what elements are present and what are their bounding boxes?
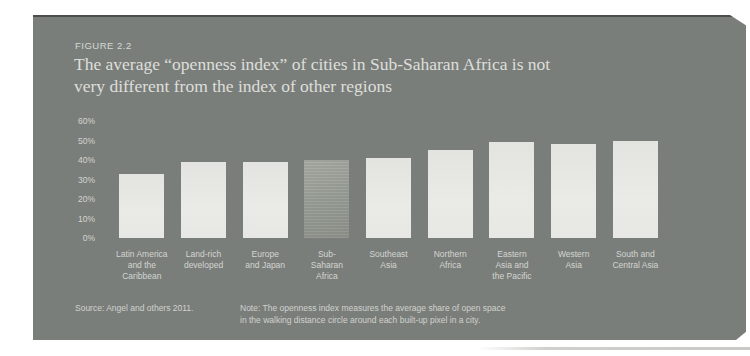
- bar-zone: [543, 121, 605, 238]
- bar-column-western-asia: Western Asia: [543, 121, 605, 282]
- bar-zone: [481, 121, 543, 238]
- bar-land-rich-developed: [181, 162, 226, 238]
- bar-column-eastern-asia-and-the-pacific: Eastern Asia and the Pacific: [481, 121, 543, 282]
- bar-zone: [296, 121, 358, 238]
- figure-panel: FIGURE 2.2 The average “openness index” …: [33, 15, 746, 340]
- figure-note-line1: Note: The openness index measures the av…: [240, 302, 505, 314]
- bar-zone: [358, 121, 420, 238]
- bar-eastern-asia-and-the-pacific: [489, 142, 534, 238]
- y-axis-tick-label-50: 50%: [55, 136, 95, 146]
- figure-number-label: FIGURE 2.2: [75, 40, 132, 51]
- bar-western-asia: [551, 144, 596, 238]
- figure-title-line2: very different from the index of other r…: [74, 75, 550, 97]
- panel-top-edge: [33, 15, 746, 17]
- bar-northern-africa: [428, 150, 473, 238]
- bar-zone: [419, 121, 481, 238]
- bar-zone: [605, 121, 667, 238]
- bar-column-northern-africa: Northern Africa: [419, 121, 481, 282]
- x-axis-label-latin-america-and-the-caribbean: Latin America and the Caribbean: [116, 249, 168, 282]
- y-axis-tick-label-60: 60%: [55, 116, 95, 126]
- bar-column-south-and-central-asia: South and Central Asia: [605, 121, 667, 282]
- x-axis-label-southeast-asia: Southeast Asia: [369, 249, 407, 271]
- bar-zone: [234, 121, 296, 238]
- bar-sub-saharan-africa: [304, 160, 349, 238]
- bar-zone: [173, 121, 235, 238]
- y-axis-tick-label-30: 30%: [55, 175, 95, 185]
- y-axis-tick-label-40: 40%: [55, 155, 95, 165]
- y-axis-tick-label-20: 20%: [55, 194, 95, 204]
- page-edge-line: [478, 347, 750, 350]
- bar-column-latin-america-and-the-caribbean: Latin America and the Caribbean: [111, 121, 173, 282]
- bar-column-southeast-asia: Southeast Asia: [358, 121, 420, 282]
- source-citation: Source: Angel and others 2011.: [75, 302, 193, 314]
- x-axis-label-eastern-asia-and-the-pacific: Eastern Asia and the Pacific: [492, 249, 531, 282]
- bar-europe-and-japan: [243, 162, 288, 238]
- figure-note-line2: in the walking distance circle around ea…: [240, 314, 505, 326]
- bar-south-and-central-asia: [613, 141, 658, 239]
- bar-column-land-rich-developed: Land-rich developed: [173, 121, 235, 282]
- x-axis-label-northern-africa: Northern Africa: [434, 249, 467, 271]
- x-axis-label-western-asia: Western Asia: [558, 249, 590, 271]
- y-axis-tick-label-0: 0%: [55, 233, 95, 243]
- x-axis-label-south-and-central-asia: South and Central Asia: [612, 249, 658, 271]
- bar-column-sub-saharan-africa: Sub- Saharan Africa: [296, 121, 358, 282]
- y-axis-tick-label-10: 10%: [55, 214, 95, 224]
- bar-zone: [111, 121, 173, 238]
- x-axis-label-europe-and-japan: Europe and Japan: [245, 249, 285, 271]
- figure-title-line1: The average “openness index” of cities i…: [74, 53, 550, 75]
- figure-note: Note: The openness index measures the av…: [240, 302, 505, 326]
- x-axis-label-land-rich-developed: Land-rich developed: [184, 249, 223, 271]
- figure-title: The average “openness index” of cities i…: [74, 53, 550, 97]
- x-axis-label-sub-saharan-africa: Sub- Saharan Africa: [311, 249, 343, 282]
- bar-southeast-asia: [366, 158, 411, 238]
- bar-column-europe-and-japan: Europe and Japan: [234, 121, 296, 282]
- bar-latin-america-and-the-caribbean: [119, 174, 164, 238]
- bar-chart: Latin America and the CaribbeanLand-rich…: [111, 121, 666, 282]
